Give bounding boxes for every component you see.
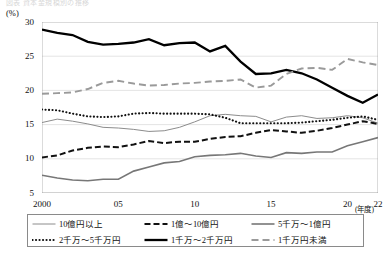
y-tick-15: 15	[8, 120, 34, 129]
legend-item-6[interactable]: 1千万円未満	[251, 232, 365, 248]
legend-item-label: 5千万～1億円	[278, 220, 331, 229]
legend-item-2[interactable]: 1億～10億円	[144, 216, 251, 232]
legend-line-swatch-icon	[144, 220, 168, 228]
y-tick-30: 30	[8, 18, 34, 27]
legend: 10億円以上1億～10億円5千万～1億円2千万～5千万円1千万～2千万円1千万円…	[27, 214, 364, 247]
plot-area	[42, 22, 378, 193]
x-tick-10: 10	[175, 200, 215, 209]
legend-item-label: 1千万円未満	[278, 236, 327, 245]
legend-line-swatch-icon	[144, 236, 168, 244]
y-tick-25: 25	[8, 52, 34, 61]
legend-item-label: 1千万～2千万円	[171, 236, 233, 245]
y-tick-5: 5	[8, 189, 34, 198]
legend-item-1[interactable]: 10億円以上	[32, 216, 144, 232]
legend-line-swatch-icon	[251, 220, 275, 228]
legend-item-label: 10億円以上	[59, 220, 103, 229]
x-tick-15: 15	[251, 200, 291, 209]
series-line-6	[42, 59, 378, 94]
x-tick-05: 05	[98, 200, 138, 209]
x-axis-unit-label: (年度)	[355, 203, 374, 214]
gridlines	[42, 22, 378, 193]
chart-figure: 図表 資本金規模別の推移 (%) 30252015105 20000510152…	[0, 0, 391, 254]
series-line-4	[42, 110, 378, 124]
cropped-header-text-label: 図表 資本金規模別の推移	[6, 0, 391, 7]
legend-item-label: 1億～10億円	[171, 220, 219, 229]
x-tick-2000: 2000	[22, 200, 62, 209]
legend-line-swatch-icon	[32, 220, 56, 228]
y-tick-10: 10	[8, 154, 34, 163]
legend-line-swatch-icon	[251, 236, 275, 244]
series-line-5	[42, 30, 378, 103]
legend-item-label: 2千万～5千万円	[59, 236, 121, 245]
data-series-group	[42, 30, 378, 181]
legend-line-swatch-icon	[32, 236, 56, 244]
y-tick-20: 20	[8, 86, 34, 95]
legend-item-4[interactable]: 2千万～5千万円	[32, 232, 144, 248]
legend-item-5[interactable]: 1千万～2千万円	[144, 232, 251, 248]
legend-item-3[interactable]: 5千万～1億円	[251, 216, 365, 232]
cropped-header-text: 図表 資本金規模別の推移	[0, 0, 391, 7]
y-axis-unit-label: (%)	[6, 8, 19, 18]
series-canvas	[42, 22, 378, 193]
